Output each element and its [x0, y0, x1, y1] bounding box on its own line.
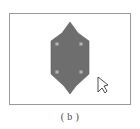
handle-top-right[interactable] [80, 43, 83, 46]
figure-caption: ( b ) [0, 110, 140, 123]
handle-bottom-right[interactable] [80, 71, 83, 74]
handle-bottom-left[interactable] [56, 71, 59, 74]
figure-panel: ( b ) [0, 0, 140, 129]
mouse-pointer-icon [98, 77, 108, 93]
handle-top-left[interactable] [56, 43, 59, 46]
hexagonal-polygon-shape[interactable] [51, 22, 89, 94]
